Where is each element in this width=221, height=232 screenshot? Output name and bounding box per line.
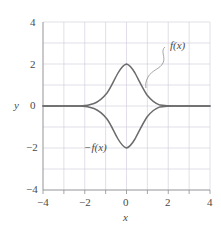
x-tick-label-0: 0 bbox=[123, 197, 129, 208]
y-tick-label-4: 4 bbox=[30, 17, 36, 28]
function-plot-figure bbox=[0, 0, 221, 232]
x-tick-label-minus-2: −2 bbox=[79, 197, 91, 208]
y-axis-title: y bbox=[14, 100, 19, 111]
y-tick-label-2: 2 bbox=[30, 59, 36, 70]
curve-label-f-of-x: f(x) bbox=[170, 40, 185, 51]
x-tick-label-minus-4: −4 bbox=[37, 197, 49, 208]
curve-label-negative-f-of-x: −f(x) bbox=[84, 142, 107, 153]
bottom-axis bbox=[43, 190, 210, 194]
y-tick-label-minus-4: −4 bbox=[26, 184, 38, 195]
x-axis-title: x bbox=[123, 212, 128, 223]
x-tick-label-2: 2 bbox=[165, 197, 171, 208]
y-tick-label-0: 0 bbox=[30, 100, 36, 111]
x-tick-label-4: 4 bbox=[207, 197, 213, 208]
leader-line-f-of-x bbox=[146, 47, 165, 88]
y-tick-label-minus-2: −2 bbox=[26, 142, 38, 153]
